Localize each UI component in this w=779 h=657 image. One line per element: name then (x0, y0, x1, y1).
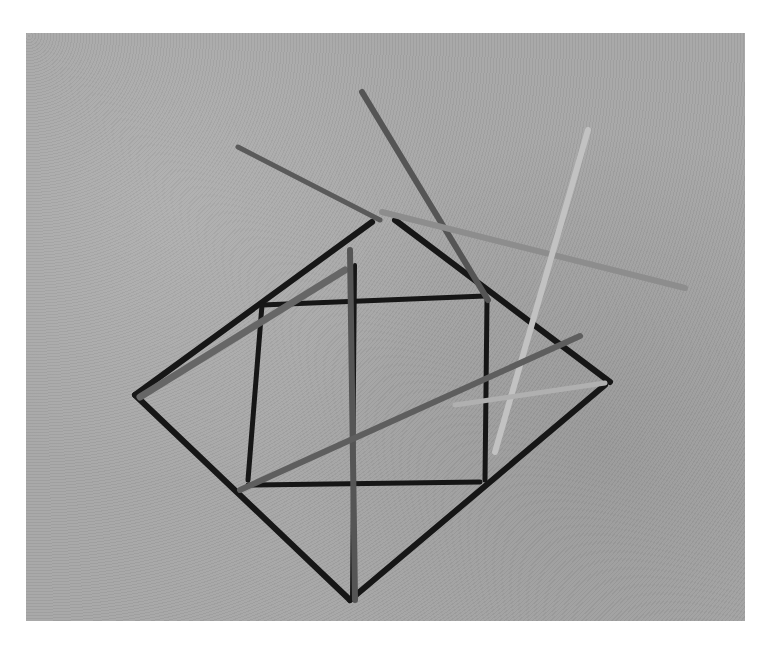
sticks (140, 92, 685, 600)
stick-arrangement (26, 33, 745, 621)
shadow-lines (135, 220, 610, 600)
photograph (26, 33, 745, 621)
